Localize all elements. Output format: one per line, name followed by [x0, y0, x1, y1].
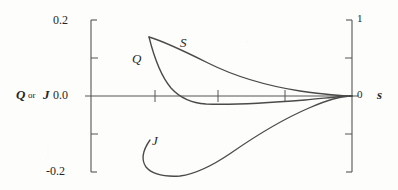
- y-axis-title-j: J: [43, 88, 50, 101]
- y-tick-label-top: 0.2: [53, 14, 68, 26]
- right-tick-label-top: 1: [357, 13, 363, 24]
- y-tick-label-zero: 0.0: [53, 89, 68, 101]
- x-axis-title-s: s: [377, 88, 382, 101]
- curve-label-j: J: [152, 134, 158, 147]
- curve-label-s: S: [180, 36, 187, 49]
- x-axis-zero-line: [85, 90, 358, 102]
- curve-label-q: Q: [132, 52, 141, 65]
- y-tick-label-bottom: -0.2: [46, 165, 65, 177]
- curve-j: [143, 96, 352, 176]
- y-axis-title-q: Q: [16, 88, 25, 101]
- right-tick-label-zero: 0: [357, 89, 363, 100]
- y-axis-title-conjunction: or: [28, 91, 36, 100]
